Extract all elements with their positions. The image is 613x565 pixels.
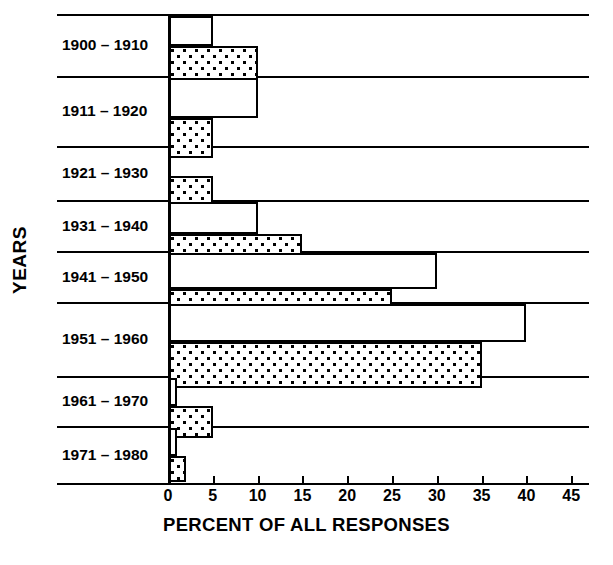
bar-open-3	[168, 202, 258, 234]
zero-baseline	[168, 14, 171, 484]
category-label: 1931 – 1940	[62, 217, 148, 235]
bar-dotted-1	[168, 118, 213, 158]
category-separator-line	[57, 76, 589, 78]
category-separator-line	[57, 146, 589, 148]
x-axis-tick	[213, 476, 215, 484]
x-axis-tick-label: 25	[372, 487, 412, 505]
x-axis-tick-label: 45	[551, 487, 591, 505]
category-label: 1961 – 1970	[62, 392, 148, 410]
x-axis-tick	[526, 476, 528, 484]
x-axis-line	[57, 483, 589, 485]
bar-chart: YEARS 1900 – 19101911 – 19201921 – 19301…	[0, 0, 613, 565]
x-axis-tick	[302, 476, 304, 484]
x-axis-tick-label: 10	[238, 487, 278, 505]
x-axis-tick-label: 5	[193, 487, 233, 505]
x-axis-tick-label: 30	[417, 487, 457, 505]
x-axis-tick-label: 35	[462, 487, 502, 505]
x-axis-tick-label: 40	[506, 487, 546, 505]
category-separator-line	[57, 14, 589, 16]
plot-area: 1900 – 19101911 – 19201921 – 19301931 – …	[0, 0, 613, 565]
category-label: 1971 – 1980	[62, 446, 148, 464]
x-axis-tick	[482, 476, 484, 484]
bar-open-4	[168, 253, 437, 289]
category-separator-line	[57, 426, 589, 428]
x-axis-tick-label: 15	[282, 487, 322, 505]
x-axis-tick-label: 20	[327, 487, 367, 505]
category-label: 1941 – 1950	[62, 268, 148, 286]
category-separator-line	[57, 200, 589, 202]
x-axis-title: PERCENT OF ALL RESPONSES	[0, 514, 613, 536]
x-axis-tick	[437, 476, 439, 484]
x-axis-tick	[392, 476, 394, 484]
bar-open-0	[168, 16, 213, 46]
bar-open-1	[168, 78, 258, 118]
bar-dotted-5	[168, 342, 482, 388]
bar-open-5	[168, 304, 526, 342]
category-label: 1951 – 1960	[62, 330, 148, 348]
x-axis-tick-label: 0	[148, 487, 188, 505]
category-label: 1900 – 1910	[62, 36, 148, 54]
x-axis-tick	[571, 476, 573, 484]
x-axis-tick	[347, 476, 349, 484]
category-label: 1911 – 1920	[62, 102, 147, 120]
category-label: 1921 – 1930	[62, 164, 148, 182]
x-axis-tick	[258, 476, 260, 484]
